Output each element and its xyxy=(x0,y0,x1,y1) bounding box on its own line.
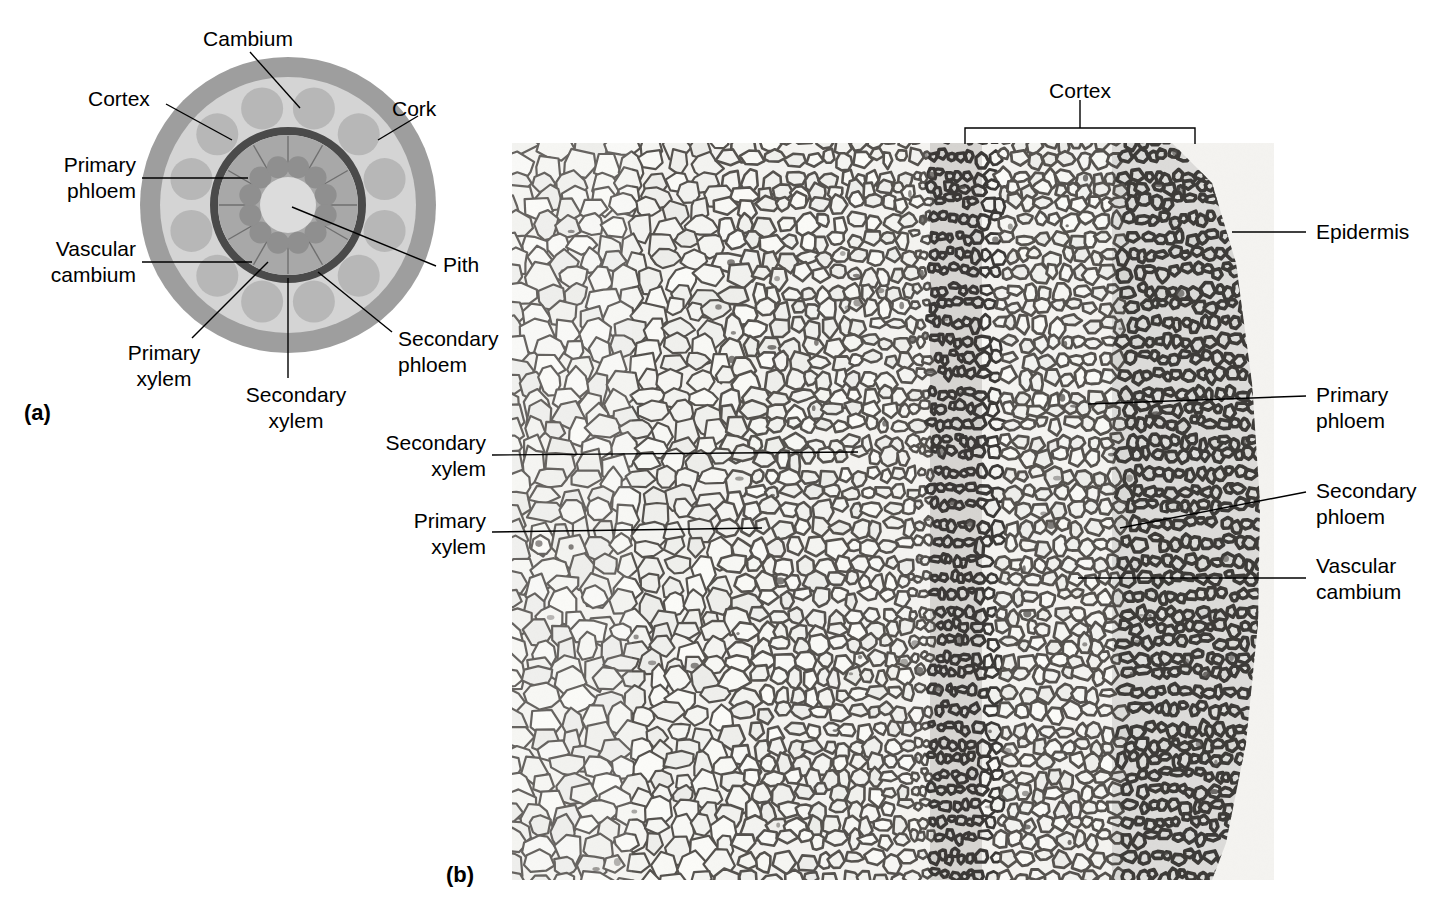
micrograph-cells xyxy=(512,143,1274,880)
micrograph-label-secondary-phloem-line2: phloem xyxy=(1316,504,1385,530)
panel-b-tag: (b) xyxy=(446,862,474,888)
micrograph-image xyxy=(512,143,1274,880)
diagram-label-primary-phloem-line2: phloem xyxy=(0,178,136,204)
diagram-label-primary-phloem-line1: Primary xyxy=(0,152,136,178)
diagram-label-secondary-xylem-line1: Secondary xyxy=(216,382,376,408)
diagram-label-primary-xylem-line1: Primary xyxy=(88,340,240,366)
micrograph-label-secondary-phloem-line1: Secondary xyxy=(1316,478,1416,504)
micrograph-label-vascular-cambium-line1: Vascular xyxy=(1316,553,1396,579)
micrograph-label-secondary-xylem-line2: xylem xyxy=(330,456,486,482)
micrograph-label-primary-xylem-line2: xylem xyxy=(330,534,486,560)
diagram-label-cork: Cork xyxy=(392,96,436,122)
micrograph-label-cortex: Cortex xyxy=(1010,78,1150,104)
micrograph-label-secondary-xylem-line1: Secondary xyxy=(330,430,486,456)
diagram-label-vascular-cambium-line1: Vascular xyxy=(0,236,136,262)
micrograph-label-vascular-cambium-line2: cambium xyxy=(1316,579,1401,605)
figure-canvas: Cambium Cortex Cork Primary phloem Vascu… xyxy=(0,0,1446,908)
micrograph-label-primary-xylem-line1: Primary xyxy=(330,508,486,534)
diagram-label-pith: Pith xyxy=(443,252,479,278)
micrograph-label-primary-phloem-line2: phloem xyxy=(1316,408,1385,434)
micrograph-label-primary-phloem-line1: Primary xyxy=(1316,382,1388,408)
micrograph-label-epidermis: Epidermis xyxy=(1316,219,1409,245)
diagram-label-cortex: Cortex xyxy=(88,86,150,112)
diagram-label-cambium: Cambium xyxy=(158,26,338,52)
panel-a-tag: (a) xyxy=(24,400,51,426)
diagram-label-vascular-cambium-line2: cambium xyxy=(0,262,136,288)
diagram-label-secondary-phloem-line2: phloem xyxy=(398,352,467,378)
diagram-label-secondary-phloem-line1: Secondary xyxy=(398,326,498,352)
